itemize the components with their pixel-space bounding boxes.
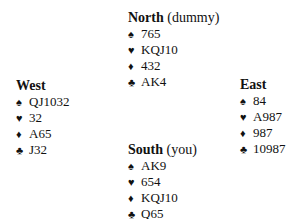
east-clubs-cards: 10987	[253, 141, 286, 156]
south-hearts: ♥654	[128, 174, 197, 190]
north-diamonds-cards: 432	[141, 58, 161, 73]
north-diamonds: ♦432	[128, 58, 219, 74]
diamond-icon: ♦	[128, 58, 141, 74]
club-icon: ♣	[16, 142, 29, 158]
north-hand: North (dummy) ♠765 ♥KQJ10 ♦432 ♣AK4	[128, 9, 219, 90]
west-hearts: ♥32	[16, 110, 69, 126]
east-name: East	[240, 77, 266, 92]
east-clubs: ♣10987	[240, 141, 286, 157]
heart-icon: ♥	[240, 109, 253, 125]
south-spades-cards: AK9	[141, 158, 166, 173]
south-clubs: ♣Q65	[128, 206, 197, 219]
west-hearts-cards: 32	[29, 110, 42, 125]
north-name: North	[128, 10, 164, 25]
spade-icon: ♠	[16, 94, 29, 110]
diamond-icon: ♦	[240, 125, 253, 141]
spade-icon: ♠	[128, 158, 141, 174]
west-heading: West	[16, 77, 69, 94]
south-diamonds: ♦KQJ10	[128, 190, 197, 206]
south-name: South	[128, 142, 163, 157]
west-clubs: ♣J32	[16, 142, 69, 158]
north-spades: ♠765	[128, 26, 219, 42]
west-spades-cards: QJ1032	[29, 94, 69, 109]
west-diamonds: ♦A65	[16, 126, 69, 142]
east-diamonds: ♦987	[240, 125, 286, 141]
north-clubs: ♣AK4	[128, 74, 219, 90]
south-spades: ♠AK9	[128, 158, 197, 174]
spade-icon: ♠	[240, 93, 253, 109]
south-diamonds-cards: KQJ10	[141, 190, 178, 205]
south-role: (you)	[167, 142, 197, 157]
north-role: (dummy)	[167, 10, 219, 25]
north-hearts: ♥KQJ10	[128, 42, 219, 58]
spade-icon: ♠	[128, 26, 141, 42]
heart-icon: ♥	[128, 42, 141, 58]
east-heading: East	[240, 76, 286, 93]
west-spades: ♠QJ1032	[16, 94, 69, 110]
heart-icon: ♥	[128, 174, 141, 190]
club-icon: ♣	[128, 74, 141, 90]
club-icon: ♣	[240, 141, 253, 157]
north-spades-cards: 765	[141, 26, 161, 41]
east-hearts: ♥A987	[240, 109, 286, 125]
east-hearts-cards: A987	[253, 109, 282, 124]
west-name: West	[16, 78, 46, 93]
south-heading: South (you)	[128, 141, 197, 158]
south-hearts-cards: 654	[141, 174, 161, 189]
west-hand: West ♠QJ1032 ♥32 ♦A65 ♣J32	[16, 77, 69, 158]
east-spades-cards: 84	[253, 93, 266, 108]
east-spades: ♠84	[240, 93, 286, 109]
north-clubs-cards: AK4	[141, 74, 166, 89]
club-icon: ♣	[128, 206, 141, 219]
west-clubs-cards: J32	[29, 142, 47, 157]
diamond-icon: ♦	[16, 126, 29, 142]
heart-icon: ♥	[16, 110, 29, 126]
west-diamonds-cards: A65	[29, 126, 51, 141]
north-heading: North (dummy)	[128, 9, 219, 26]
east-diamonds-cards: 987	[253, 125, 273, 140]
diamond-icon: ♦	[128, 190, 141, 206]
east-hand: East ♠84 ♥A987 ♦987 ♣10987	[240, 76, 286, 157]
south-hand: South (you) ♠AK9 ♥654 ♦KQJ10 ♣Q65	[128, 141, 197, 219]
north-hearts-cards: KQJ10	[141, 42, 178, 57]
south-clubs-cards: Q65	[141, 206, 163, 219]
